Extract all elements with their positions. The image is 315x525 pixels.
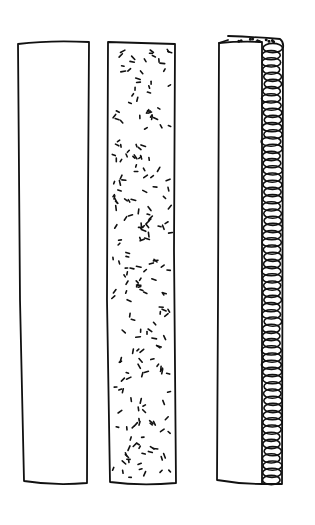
speckled-strip xyxy=(107,42,176,484)
serged-strip xyxy=(217,42,262,484)
plain-strip xyxy=(18,41,89,484)
overlock-loops xyxy=(261,43,282,484)
speckle-texture xyxy=(112,38,275,477)
fabric-strips-illustration xyxy=(0,0,315,525)
